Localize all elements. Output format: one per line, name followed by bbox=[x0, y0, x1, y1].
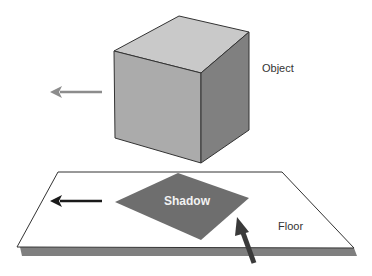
cube-object bbox=[114, 16, 249, 163]
diagram-canvas bbox=[0, 0, 372, 276]
object-label: Object bbox=[262, 62, 294, 74]
floor-label: Floor bbox=[278, 220, 303, 232]
object-motion-arrow bbox=[50, 86, 102, 98]
shadow-diagram: Object Shadow Floor bbox=[0, 0, 372, 276]
shadow-label: Shadow bbox=[164, 194, 210, 208]
